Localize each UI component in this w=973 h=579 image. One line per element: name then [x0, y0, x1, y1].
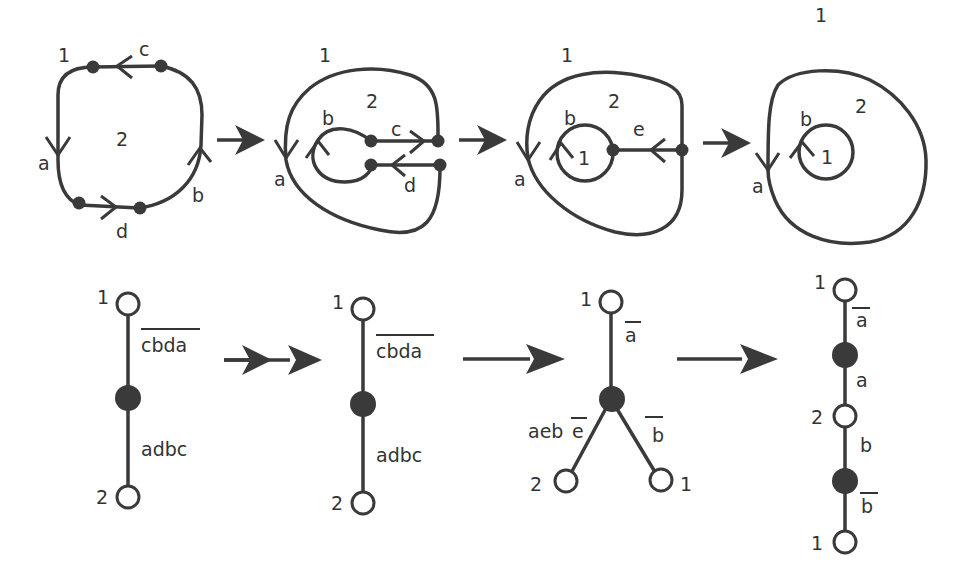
edge-label: a [625, 324, 637, 346]
open-node [117, 486, 139, 508]
edge-label: b [800, 108, 812, 130]
vertex [134, 202, 147, 215]
edge-label: a [856, 309, 868, 331]
transform-arrow [703, 128, 751, 158]
face-label: 1 [58, 44, 70, 66]
arrow-head-icon [288, 345, 322, 375]
edge-label: b [860, 434, 872, 456]
filled-node [599, 386, 625, 412]
vertex [432, 135, 445, 148]
face-label: 1 [319, 44, 331, 66]
transform-arrow [217, 125, 265, 155]
node-label: 1 [811, 532, 823, 554]
open-node [352, 298, 374, 320]
graph-3: 1 2 1 a aeb e b [528, 288, 692, 495]
edge-label: a [856, 369, 868, 391]
vertex [676, 144, 689, 157]
graph-1: 1 2 cbda adbc [96, 286, 200, 508]
open-node [600, 291, 622, 313]
node-label: 1 [814, 271, 826, 293]
open-node [117, 293, 139, 315]
edge-label: d [116, 220, 128, 242]
edge-a-outer [527, 72, 682, 234]
vertex [607, 144, 620, 157]
open-node [834, 279, 856, 301]
face-label: 2 [855, 95, 867, 117]
edge-label: a [514, 168, 526, 190]
filled-node [350, 391, 376, 417]
graph-4: 1 2 1 a a b b [811, 271, 878, 554]
node-label: 1 [97, 286, 109, 308]
edge-label: a [38, 152, 50, 174]
edge-label: a [752, 175, 764, 197]
arrow-tick-b [306, 141, 329, 158]
edge-label: aeb [528, 420, 563, 442]
open-node [555, 470, 577, 492]
face-label: 1 [815, 4, 827, 26]
open-node [834, 405, 856, 427]
face-label: 1 [561, 44, 573, 66]
edge-label: c [391, 118, 401, 140]
vertex [365, 135, 378, 148]
arrow-head-icon [526, 344, 565, 374]
face-label: 1 [578, 147, 590, 169]
edge-label: b [192, 184, 204, 206]
edge-label: cbda [141, 334, 187, 356]
map-panel-2: 1 2 a b c d [274, 44, 447, 232]
edge-b-inner [313, 129, 371, 182]
edge-label: adbc [141, 438, 187, 460]
face-label: 2 [366, 90, 378, 112]
edge-label: b [322, 107, 334, 129]
edge-label: c [139, 38, 149, 60]
map-panel-1: 1 2 a b c d [38, 38, 211, 242]
filled-node [832, 468, 858, 494]
edge-label: b [652, 424, 664, 446]
vertex [434, 159, 447, 172]
node-label: 1 [580, 288, 592, 310]
edge-label: adbc [376, 444, 422, 466]
transform-arrow [459, 125, 507, 155]
arrow-tick-b [790, 142, 814, 158]
node-label: 1 [332, 291, 344, 313]
face-label: 2 [608, 90, 620, 112]
vertex [155, 60, 168, 73]
edge-a [58, 67, 93, 205]
edge-label: a [274, 168, 286, 190]
arrow-head-icon [740, 344, 778, 374]
filled-node [832, 342, 858, 368]
edge-label: d [404, 174, 416, 196]
edge-label: cbda [376, 340, 422, 362]
edge-d [80, 205, 139, 208]
vertex [73, 197, 86, 210]
open-node [352, 492, 374, 514]
node-label: 2 [530, 473, 542, 495]
edge-label: e [572, 420, 584, 442]
map-panel-3: 1 2 1 a b e [514, 44, 689, 235]
node-label: 2 [96, 486, 108, 508]
open-node [650, 469, 672, 491]
edge-c [93, 66, 161, 67]
edge-label: b [564, 107, 576, 129]
graph-edge [611, 399, 658, 477]
edge-a-outer [285, 69, 440, 232]
graph-2: 1 2 cbda adbc [331, 291, 434, 514]
node-label: 2 [331, 492, 343, 514]
face-label: 1 [821, 146, 833, 168]
open-node [834, 531, 856, 553]
diagram-canvas: 1 2 a b c d 1 2 a b c d [0, 0, 973, 579]
map-panel-4: 1 2 1 a b [752, 4, 926, 243]
filled-node [115, 385, 141, 411]
edge-label: e [633, 118, 645, 140]
face-label: 2 [116, 128, 128, 150]
vertex [365, 159, 378, 172]
node-label: 1 [680, 473, 692, 495]
edge-label: b [861, 495, 873, 517]
node-label: 2 [811, 406, 823, 428]
arrow-tick-b [550, 143, 573, 160]
vertex [87, 61, 100, 74]
